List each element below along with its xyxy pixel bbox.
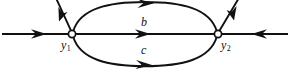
upper-right-ray-line xyxy=(220,0,240,31)
node-label-y1-subscript: 1 xyxy=(67,44,71,53)
edge-label-b: b xyxy=(141,16,147,28)
node-label-y1-base: y xyxy=(61,38,66,52)
node-label-y2-subscript: 2 xyxy=(227,44,231,53)
edge-upper-left-ray xyxy=(56,0,72,31)
lower-arc-arrowhead-right xyxy=(136,60,152,69)
phase-line-diagram: b c y1 y2 xyxy=(0,0,290,77)
edge-left-axis xyxy=(2,29,69,38)
node-y2[interactable] xyxy=(214,30,221,37)
diagram-canvas xyxy=(0,0,290,77)
edge-upper-right-ray xyxy=(220,0,240,31)
edge-middle-connector xyxy=(76,29,215,38)
upper-right-ray-arrowhead xyxy=(227,6,237,21)
node-label-y2-base: y xyxy=(221,38,226,52)
node-y1[interactable] xyxy=(68,30,75,37)
edge-label-c: c xyxy=(141,44,146,56)
node-label-y1: y1 xyxy=(61,39,70,51)
edge-right-axis xyxy=(221,29,288,38)
node-label-y2: y2 xyxy=(221,39,230,51)
